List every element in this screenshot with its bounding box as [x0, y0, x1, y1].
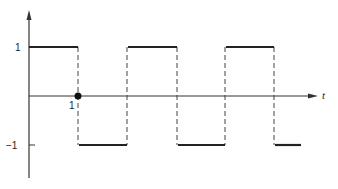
y-tick-label-neg: −1 — [6, 140, 18, 151]
y-tick-label-pos: 1 — [15, 42, 21, 53]
y-axis-arrow-icon — [27, 10, 32, 20]
x-axis-label: t — [322, 89, 326, 101]
x-tick-label-one: 1 — [69, 100, 75, 111]
marked-point — [75, 93, 82, 100]
x-axis-arrow-icon — [308, 94, 318, 99]
square-wave-chart: t −1 1 1 — [0, 0, 338, 189]
